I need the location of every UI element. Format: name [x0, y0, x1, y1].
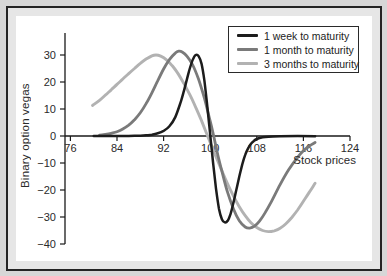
legend-item: 1 month to maturity	[237, 44, 358, 56]
legend: 1 week to maturity 1 month to maturity 3…	[228, 26, 359, 73]
y-tick-label: −30	[37, 211, 56, 223]
legend-item-label: 1 week to maturity	[264, 30, 349, 42]
figure: 3020100−10−20−30−40768492100108116124 Bi…	[0, 0, 387, 276]
series-line-1-month-to-maturity	[100, 51, 316, 228]
series-line-1-week-to-maturity	[94, 55, 315, 223]
y-tick-label: 10	[44, 103, 56, 115]
y-tick-label: −20	[37, 184, 56, 196]
y-tick-label: 20	[44, 76, 56, 88]
legend-item-label: 1 month to maturity	[264, 44, 354, 56]
chart-panel: 3020100−10−20−30−40768492100108116124 Bi…	[16, 16, 372, 261]
y-tick-label: −10	[37, 157, 56, 169]
legend-item-label: 3 months to maturity	[264, 58, 359, 70]
y-tick-label: −40	[37, 238, 56, 250]
y-tick-label: 30	[44, 49, 56, 61]
x-tick-label: 124	[341, 142, 359, 154]
y-axis-title: Binary option vegas	[19, 78, 34, 194]
legend-item: 3 months to maturity	[237, 58, 358, 70]
y-tick-label: 0	[50, 130, 56, 142]
legend-line-swatch	[237, 34, 258, 37]
x-tick-label: 92	[157, 142, 169, 154]
legend-line-swatch	[237, 48, 258, 51]
legend-item: 1 week to maturity	[237, 30, 358, 42]
legend-line-swatch	[237, 62, 258, 65]
x-tick-label: 84	[111, 142, 123, 154]
x-axis-title: Stock prices	[293, 154, 356, 166]
x-tick-label: 76	[64, 142, 76, 154]
figure-frame: 3020100−10−20−30−40768492100108116124 Bi…	[6, 6, 382, 271]
